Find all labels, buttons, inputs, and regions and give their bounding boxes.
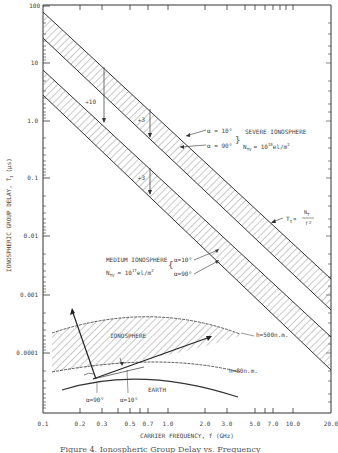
svg-text:SEVERE IONOSPHERE: SEVERE IONOSPHERE (245, 128, 307, 135)
svg-text:5.0: 5.0 (250, 420, 261, 427)
y-tick-0.0001: 0.0001 (16, 349, 38, 356)
svg-text:α = 10°: α = 10° (207, 127, 232, 134)
medium-ionosphere-legend: MEDIUM IONOSPHERE { α=10° NTV= 1017el/m2… (106, 249, 219, 278)
svg-text:2.0: 2.0 (200, 420, 211, 427)
svg-text:20.0: 20.0 (324, 420, 338, 427)
y-tick-100: 100 (29, 2, 40, 9)
svg-text:}: } (235, 135, 240, 145)
earth-label: EARTH (148, 386, 166, 393)
svg-text:α = 90°: α = 90° (207, 142, 232, 149)
alpha-90-label: α=90° (86, 396, 104, 403)
h80-label: h=80n.m. (229, 367, 258, 374)
svg-text:α=90°: α=90° (174, 270, 192, 277)
svg-text:0.7: 0.7 (143, 420, 154, 427)
ionosphere-label: IONOSPHERE (110, 332, 147, 339)
svg-text:0.5: 0.5 (125, 420, 136, 427)
svg-text:1.0: 1.0 (163, 420, 174, 427)
y-tick-0.01: 0.01 (24, 232, 39, 239)
y-tick-0.001: 0.001 (20, 291, 38, 298)
svg-text:0.1: 0.1 (38, 420, 49, 427)
svg-text:÷3: ÷3 (138, 174, 146, 181)
svg-text:10.0: 10.0 (286, 420, 301, 427)
ionosphere-diagram: IONOSPHERE EARTH α=90° α=10° h=500n.m. h… (52, 308, 289, 403)
x-tick-labels: 0.1 0.2 0.3 0.5 0.7 1.0 2.0 3.0 5.0 7.0 … (38, 420, 338, 427)
y-tick-labels: 100 10 1.0 0.1 0.01 0.001 0.0001 (16, 2, 40, 356)
chart: 100 10 1.0 0.1 0.01 0.001 0.0001 0.1 0.2… (0, 0, 338, 453)
h500-label: h=500n.m. (256, 331, 289, 338)
svg-text:MEDIUM IONOSPHERE: MEDIUM IONOSPHERE (106, 256, 168, 263)
svg-text:f2: f2 (305, 220, 312, 226)
svg-text:0.3: 0.3 (97, 420, 108, 427)
svg-text:{: { (168, 260, 173, 270)
y-tick-10: 10 (31, 59, 39, 66)
y-tick-1: 1.0 (27, 117, 38, 124)
severe-ionosphere-legend: α = 10° α = 90° } SEVERE IONOSPHERE NTV=… (180, 127, 307, 152)
svg-text:÷3: ÷3 (138, 116, 146, 123)
svg-text:NTV= 1017el/m2: NTV= 1017el/m2 (106, 268, 154, 278)
svg-text:TI∝: TI∝ (286, 215, 297, 224)
svg-text:0.2: 0.2 (75, 420, 86, 427)
x-axis-label: CARRIER FREQUENCY, f (GHz) (140, 432, 234, 439)
svg-text:NT: NT (304, 209, 310, 217)
figure-caption: Figure 4. Ionospheric Group Delay vs. Fr… (60, 445, 261, 453)
svg-text:÷10: ÷10 (85, 98, 96, 105)
medium-alpha10-line (43, 70, 331, 337)
alpha-10-label: α=10° (120, 396, 138, 403)
y-axis-label: IONOSPHERIC GROUP DELAY, TI(µs) (5, 158, 14, 272)
svg-text:α=10°: α=10° (174, 256, 192, 263)
severe-ionosphere-band (43, 12, 331, 310)
svg-text:3.0: 3.0 (222, 420, 233, 427)
y-tick-0.1: 0.1 (27, 174, 38, 181)
svg-text:NTV= 1018el/m2: NTV= 1018el/m2 (243, 142, 290, 152)
formula-annotation: TI∝ NT f2 (271, 209, 314, 226)
svg-text:7.0: 7.0 (268, 420, 279, 427)
